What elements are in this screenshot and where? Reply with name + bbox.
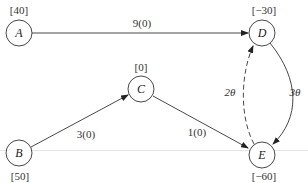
supply-c: [0] <box>135 61 148 73</box>
edge-label-b-c: 3(0) <box>77 128 96 141</box>
network-diagram: A B C D E [40] [50] [0] [−30] [−60] 9(0)… <box>0 0 308 183</box>
svg-text:E: E <box>257 148 266 162</box>
edge-c-e <box>153 96 248 148</box>
svg-text:D: D <box>257 26 267 40</box>
edge-label-c-e: 1(0) <box>188 126 207 139</box>
node-c: C <box>128 76 154 102</box>
edge-label-d-e: 3θ <box>289 86 302 98</box>
node-b: B <box>6 140 32 166</box>
edge-e-d-dashed <box>243 46 254 144</box>
svg-text:B: B <box>15 146 23 160</box>
supply-d: [−30] <box>252 4 277 16</box>
svg-text:A: A <box>14 26 23 40</box>
supply-e: [−60] <box>252 170 277 182</box>
node-e: E <box>249 142 275 168</box>
supply-a: [40] <box>10 4 28 16</box>
edge-label-e-d: 2θ <box>225 86 237 98</box>
node-d: D <box>249 20 275 46</box>
supply-b: [50] <box>11 170 29 182</box>
edge-label-a-d: 9(0) <box>133 17 152 30</box>
svg-text:C: C <box>137 82 146 96</box>
node-a: A <box>6 20 32 46</box>
